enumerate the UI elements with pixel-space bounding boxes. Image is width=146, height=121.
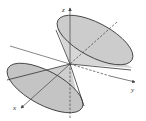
y-axis [110, 76, 135, 82]
y-axis-back [10, 46, 70, 64]
double-cone-diagram: z y x [0, 0, 146, 121]
z-axis-label: z [61, 6, 65, 14]
y-axis-label: y [130, 86, 135, 94]
x-axis-label: x [12, 104, 17, 112]
